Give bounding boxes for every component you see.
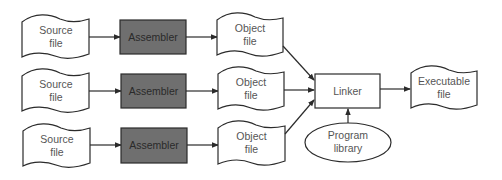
linker-label: Linker	[333, 85, 362, 97]
assembler-3-label: Assembler	[129, 139, 179, 151]
edge-object3-linker	[285, 100, 314, 134]
linker: Linker	[315, 74, 380, 108]
program-library-line1: Program	[328, 129, 369, 141]
executable-file-line1: Executable	[418, 75, 470, 87]
source-file-2: Source file	[22, 69, 89, 112]
source-file-3-line1: Source	[40, 133, 73, 145]
executable-file: Executable file	[411, 66, 477, 109]
source-file-2-line1: Source	[39, 78, 72, 90]
assembler-2-label: Assembler	[129, 85, 179, 97]
assembler-linker-diagram: Source file Assembler Object file Source…	[0, 0, 502, 180]
object-file-2-line2: file	[244, 89, 258, 101]
object-file-2: Object file	[218, 67, 284, 110]
object-file-1-line1: Object	[235, 22, 265, 34]
edge-object1-linker	[283, 46, 314, 80]
source-file-1: Source file	[22, 15, 89, 58]
object-file-1: Object file	[217, 13, 283, 56]
source-file-1-line1: Source	[39, 24, 72, 36]
object-file-1-line2: file	[243, 35, 257, 47]
object-file-3-line2: file	[245, 143, 259, 155]
assembler-1: Assembler	[120, 20, 186, 54]
object-file-3: Object file	[218, 121, 285, 165]
source-file-2-line2: file	[49, 91, 63, 103]
object-file-2-line1: Object	[236, 76, 266, 88]
assembler-3: Assembler	[121, 128, 187, 163]
assembler-1-label: Assembler	[128, 31, 178, 43]
executable-file-line2: file	[437, 88, 451, 100]
assembler-2: Assembler	[121, 74, 186, 108]
source-file-3: Source file	[23, 124, 90, 167]
source-file-3-line2: file	[50, 146, 64, 158]
object-file-3-line1: Object	[236, 130, 266, 142]
program-library-line2: library	[334, 142, 363, 154]
source-file-1-line2: file	[49, 37, 63, 49]
program-library: Program library	[305, 123, 391, 162]
